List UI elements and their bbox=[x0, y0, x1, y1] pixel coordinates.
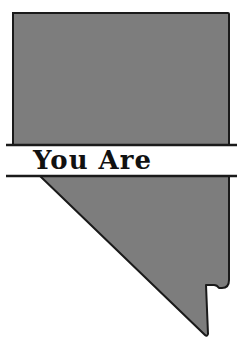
state-shape-lower bbox=[40, 176, 229, 336]
state-shape-upper bbox=[13, 13, 229, 145]
banner-text: You Are bbox=[33, 145, 152, 176]
nevada-graphic bbox=[0, 0, 244, 355]
